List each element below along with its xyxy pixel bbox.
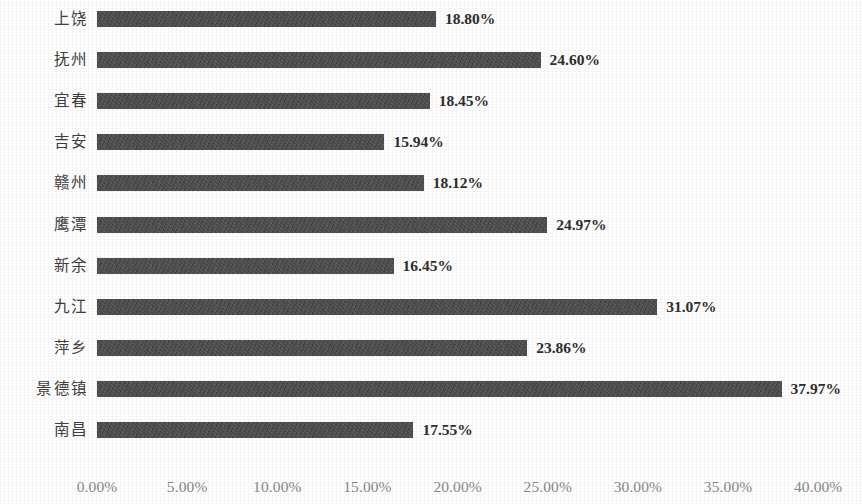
bar-value-label: 18.12% — [433, 175, 483, 191]
category-label: 吉安 — [0, 125, 88, 159]
category-label: 赣州 — [0, 166, 88, 200]
bar-value-label: 31.07% — [666, 299, 716, 315]
bar-row: 鹰潭24.97% — [0, 208, 862, 242]
bar-row: 萍乡23.86% — [0, 331, 862, 365]
x-axis-tick-label: 0.00% — [77, 478, 118, 496]
x-axis-tick-label: 10.00% — [253, 478, 301, 496]
bar — [97, 52, 541, 68]
bar-value-label: 16.45% — [403, 258, 453, 274]
bar-row: 宜春18.45% — [0, 84, 862, 118]
category-label: 鹰潭 — [0, 208, 88, 242]
bar-row: 抚州24.60% — [0, 43, 862, 77]
bar-value-label: 17.55% — [422, 422, 472, 438]
x-axis-tick-label: 35.00% — [704, 478, 752, 496]
bar-row: 景德镇37.97% — [0, 372, 862, 406]
x-axis-tick-label: 40.00% — [794, 478, 842, 496]
x-axis-tick-label: 30.00% — [614, 478, 662, 496]
x-axis-tick-label: 20.00% — [433, 478, 481, 496]
bar — [97, 340, 527, 356]
bar — [97, 258, 394, 274]
bar — [97, 93, 430, 109]
bar-value-label: 23.86% — [536, 340, 586, 356]
x-axis: 0.00%5.00%10.00%15.00%20.00%25.00%30.00%… — [0, 462, 862, 504]
bar-chart: 上饶18.80%抚州24.60%宜春18.45%吉安15.94%赣州18.12%… — [0, 0, 862, 504]
x-axis-tick-label: 15.00% — [343, 478, 391, 496]
x-axis-tick-label: 5.00% — [167, 478, 208, 496]
bar-value-label: 18.45% — [439, 93, 489, 109]
category-label: 上饶 — [0, 2, 88, 36]
category-label: 南昌 — [0, 413, 88, 447]
bar — [97, 175, 424, 191]
bar-value-label: 24.97% — [556, 217, 606, 233]
category-label: 新余 — [0, 249, 88, 283]
bar-value-label: 15.94% — [393, 134, 443, 150]
bar — [97, 299, 657, 315]
bar — [97, 11, 436, 27]
bar-row: 赣州18.12% — [0, 166, 862, 200]
x-axis-tick-label: 25.00% — [524, 478, 572, 496]
bar — [97, 217, 547, 233]
bar-row: 九江31.07% — [0, 290, 862, 324]
bar — [97, 381, 782, 397]
category-label: 抚州 — [0, 43, 88, 77]
category-label: 九江 — [0, 290, 88, 324]
plot-area: 上饶18.80%抚州24.60%宜春18.45%吉安15.94%赣州18.12%… — [0, 0, 862, 462]
category-label: 宜春 — [0, 84, 88, 118]
category-label: 景德镇 — [0, 372, 88, 406]
bar-value-label: 18.80% — [445, 11, 495, 27]
bar-row: 南昌17.55% — [0, 413, 862, 447]
bar-value-label: 24.60% — [550, 52, 600, 68]
bar — [97, 422, 413, 438]
bar-value-label: 37.97% — [791, 381, 841, 397]
bar-row: 吉安15.94% — [0, 125, 862, 159]
bar-row: 新余16.45% — [0, 249, 862, 283]
category-label: 萍乡 — [0, 331, 88, 365]
bar-row: 上饶18.80% — [0, 2, 862, 36]
bar — [97, 134, 384, 150]
